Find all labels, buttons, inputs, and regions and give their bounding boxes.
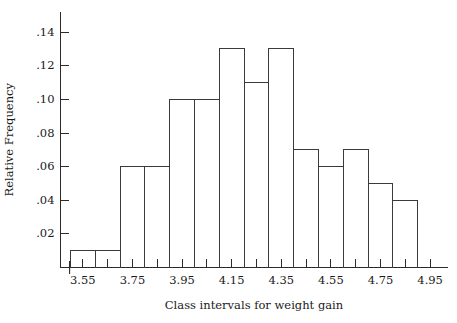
histogram-plot: .02.04.06.08.10.12.14 3.553.753.954.154.… bbox=[0, 0, 457, 323]
x-tick-label-4.55: 4.55 bbox=[318, 273, 344, 287]
x-tick-label-3.55: 3.55 bbox=[70, 273, 96, 287]
y-tick-label-.06: .06 bbox=[36, 159, 54, 173]
x-tick-label-3.95: 3.95 bbox=[169, 273, 195, 287]
y-axis: .02.04.06.08.10.12.14 bbox=[36, 12, 68, 268]
y-axis-title: Relative Frequency bbox=[2, 83, 16, 197]
y-tick-label-.10: .10 bbox=[36, 92, 54, 106]
x-tick-label-4.35: 4.35 bbox=[268, 273, 294, 287]
x-tick-label-3.75: 3.75 bbox=[120, 273, 146, 287]
histogram-bars bbox=[70, 49, 417, 268]
y-tick-label-.02: .02 bbox=[36, 226, 54, 240]
x-axis-title: Class intervals for weight gain bbox=[165, 298, 344, 312]
y-tick-label-.14: .14 bbox=[36, 25, 54, 39]
x-tick-label-4.75: 4.75 bbox=[368, 273, 394, 287]
histogram-figure: .02.04.06.08.10.12.14 3.553.753.954.154.… bbox=[0, 0, 457, 323]
x-tick-label-4.15: 4.15 bbox=[219, 273, 245, 287]
y-tick-label-.12: .12 bbox=[36, 58, 54, 72]
x-axis: 3.553.753.954.154.354.554.754.95 bbox=[61, 259, 448, 287]
y-tick-label-.08: .08 bbox=[36, 126, 54, 140]
y-tick-label-.04: .04 bbox=[36, 193, 54, 207]
x-tick-label-4.95: 4.95 bbox=[417, 273, 443, 287]
